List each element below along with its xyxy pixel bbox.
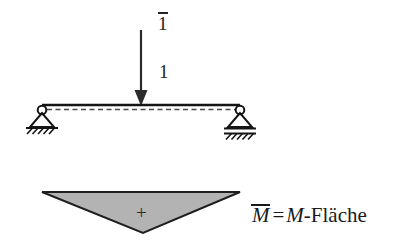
- load-arrow: [135, 30, 148, 106]
- moment-caption-equals: =: [273, 203, 285, 227]
- moment-caption-symbol: M: [286, 203, 304, 227]
- load-label-top: 1: [158, 12, 168, 33]
- load-arrow-head: [135, 90, 148, 106]
- pin-support: [26, 106, 58, 134]
- moment-area-caption: M=M-Fläche: [252, 203, 367, 226]
- moment-caption-tail: -Fläche: [304, 203, 367, 227]
- roller-support: [224, 106, 256, 140]
- load-label-bottom: 1: [159, 62, 169, 81]
- load-label-top-value: 1: [158, 12, 168, 33]
- structural-figure: 1 1 + M=M-Fläche: [0, 0, 414, 251]
- moment-caption-bar-symbol: M: [252, 203, 270, 226]
- moment-sign-marker: +: [136, 203, 147, 222]
- beam-group: [42, 105, 240, 110]
